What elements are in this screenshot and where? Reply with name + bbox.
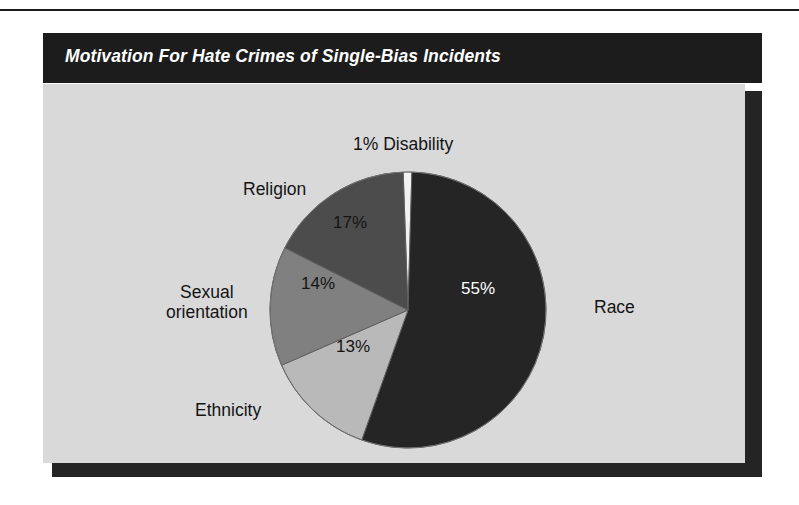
top-divider-rule: [0, 9, 799, 11]
pie-label-sexual-orientation: Sexual orientation: [166, 283, 248, 322]
chart-exhibit: Motivation For Hate Crimes of Single-Bia…: [43, 33, 762, 477]
slice-value-race: 55%: [461, 279, 495, 299]
pie-chart: 55% 13% 14% 17% 1% Disability Race Ethni…: [43, 84, 745, 463]
pie-label-disability: 1% Disability: [353, 135, 453, 155]
pie-label-sexual-orientation-line2: orientation: [166, 303, 248, 323]
slice-value-ethnicity: 13%: [336, 337, 370, 357]
chart-plot-panel: 55% 13% 14% 17% 1% Disability Race Ethni…: [43, 84, 745, 463]
pie-label-sexual-orientation-line1: Sexual: [166, 283, 248, 303]
chart-title-bar: Motivation For Hate Crimes of Single-Bia…: [43, 33, 762, 83]
slice-value-sexual-orientation: 14%: [301, 274, 335, 294]
figure-root: Motivation For Hate Crimes of Single-Bia…: [0, 0, 799, 505]
pie-label-ethnicity: Ethnicity: [195, 401, 261, 421]
page-title: Motivation For Hate Crimes of Single-Bia…: [65, 46, 501, 67]
pie-label-race: Race: [594, 298, 635, 318]
slice-value-religion: 17%: [333, 213, 367, 233]
pie-label-religion: Religion: [243, 180, 306, 200]
